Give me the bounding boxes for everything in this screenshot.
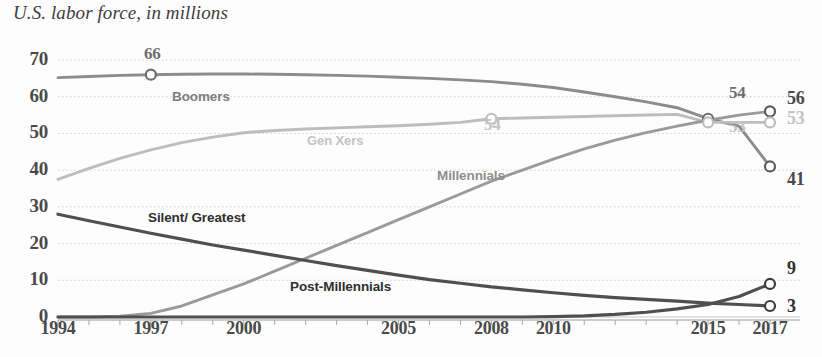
series-label-boomers: Boomers <box>172 89 230 104</box>
x-tick-label-2010: 2010 <box>518 318 588 339</box>
marker-boomers-peak <box>146 70 156 80</box>
y-tick-label-40: 40 <box>8 158 48 180</box>
series-markers <box>146 70 775 311</box>
x-tick-label-1997: 1997 <box>116 318 186 339</box>
line-silent-greatest <box>58 214 770 306</box>
point-label-genx-2015-53: 53 <box>729 117 745 137</box>
x-tick-label-2017: 2017 <box>735 318 805 339</box>
y-tick-label-10: 10 <box>8 268 48 290</box>
end-label-millennials-56: 56 <box>787 88 804 109</box>
marker-genx-2015 <box>703 117 713 127</box>
x-tick-label-2008: 2008 <box>456 318 526 339</box>
point-label-genx-54: 54 <box>484 115 500 135</box>
line-gen-xers <box>58 114 770 179</box>
line-chart-canvas <box>0 0 822 357</box>
x-tick-label-2015: 2015 <box>673 318 743 339</box>
marker-millennials-end <box>765 106 775 116</box>
series-label-millennials: Millennials <box>437 168 505 183</box>
line-boomers <box>58 74 770 167</box>
marker-genx-end <box>765 117 775 127</box>
marker-postmillennials-end <box>765 279 775 289</box>
point-label-boomers-2015-54: 54 <box>729 83 745 103</box>
y-tick-label-70: 70 <box>8 48 48 70</box>
series-label-gen-xers: Gen Xers <box>307 133 363 148</box>
series-label-silent-greatest: Silent/ Greatest <box>148 210 245 225</box>
marker-boomers-end <box>765 161 775 171</box>
y-tick-label-60: 60 <box>8 85 48 107</box>
end-label-gen-xers-53: 53 <box>787 108 804 129</box>
y-tick-label-30: 30 <box>8 195 48 217</box>
end-label-boomers-41: 41 <box>787 169 804 190</box>
x-tick-label-2000: 2000 <box>209 318 279 339</box>
end-label-post-millennials-9: 9 <box>787 258 796 279</box>
y-tick-label-20: 20 <box>8 232 48 254</box>
chart-figure: U.S. labor force, in millions 7060504030… <box>0 0 822 357</box>
end-label-silent-greatest-3: 3 <box>787 296 796 317</box>
point-label-boomers-66: 66 <box>144 44 160 64</box>
y-tick-label-50: 50 <box>8 121 48 143</box>
x-tick-label-1994: 1994 <box>23 318 93 339</box>
marker-silent-end <box>765 301 775 311</box>
x-tick-label-2005: 2005 <box>364 318 434 339</box>
series-label-post-millennials: Post-Millennials <box>290 279 391 294</box>
